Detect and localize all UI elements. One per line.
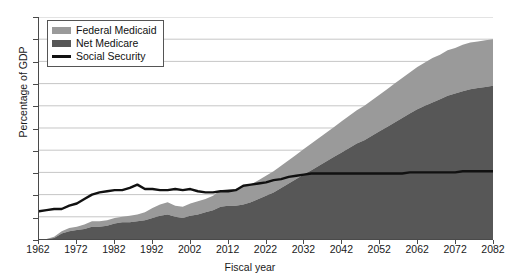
x-tick-mark — [114, 240, 115, 244]
legend-item: Social Security — [52, 50, 157, 63]
x-tick-mark — [152, 240, 153, 244]
area-net-medicare — [39, 86, 493, 239]
x-tick-label: 2072 — [443, 243, 466, 255]
x-tick-label: 2032 — [292, 243, 315, 255]
x-tick-mark — [493, 240, 494, 244]
x-tick-mark — [379, 240, 380, 244]
x-tick-label: 1992 — [140, 243, 163, 255]
x-tick-mark — [341, 240, 342, 244]
x-tick-label: 2052 — [368, 243, 391, 255]
x-tick-mark — [266, 240, 267, 244]
line-swatch-icon — [52, 55, 71, 58]
x-axis-label: Fiscal year — [0, 261, 500, 273]
x-tick-label: 2012 — [216, 243, 239, 255]
legend-label: Social Security — [76, 51, 145, 62]
x-tick-label: 1962 — [26, 243, 49, 255]
x-tick-mark — [455, 240, 456, 244]
x-tick-mark — [38, 240, 39, 244]
chart-legend: Federal MedicaidNet MedicareSocial Secur… — [47, 20, 164, 67]
x-tick-label: 2002 — [178, 243, 201, 255]
legend-label: Net Medicare — [76, 38, 138, 49]
x-tick-label: 2022 — [254, 243, 277, 255]
legend-label: Federal Medicaid — [76, 25, 157, 36]
area-swatch-icon — [52, 40, 71, 47]
legend-item: Federal Medicaid — [52, 24, 157, 37]
x-tick-mark — [417, 240, 418, 244]
x-tick-label: 2082 — [481, 243, 504, 255]
area-swatch-icon — [52, 27, 71, 34]
x-tick-label: 1972 — [64, 243, 87, 255]
x-tick-mark — [76, 240, 77, 244]
x-tick-label: 2062 — [405, 243, 428, 255]
legend-item: Net Medicare — [52, 37, 157, 50]
y-axis-label: Percentage of GDP — [17, 22, 29, 162]
x-tick-mark — [303, 240, 304, 244]
x-tick-mark — [190, 240, 191, 244]
x-tick-label: 2042 — [330, 243, 353, 255]
x-tick-label: 1982 — [102, 243, 125, 255]
x-tick-mark — [228, 240, 229, 244]
